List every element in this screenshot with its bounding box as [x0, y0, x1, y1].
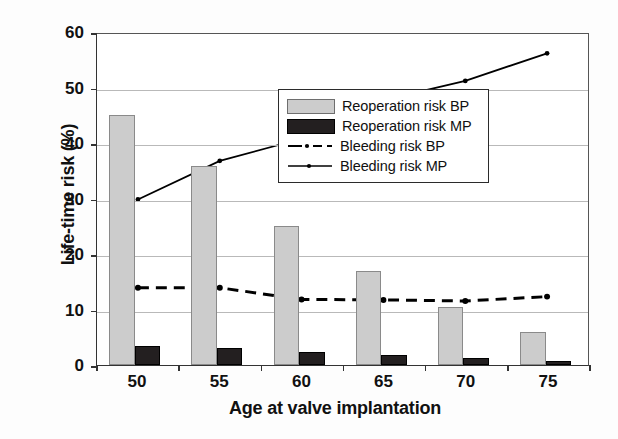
- y-axis-tick-label: 30: [44, 190, 84, 210]
- y-axis-tick-label: 60: [44, 23, 84, 43]
- legend-swatch-reoperation-mp-icon: [287, 119, 335, 134]
- x-axis-title: Age at valve implantation: [80, 398, 590, 419]
- bar: [356, 271, 381, 365]
- legend-label: Reoperation risk BP: [342, 98, 469, 114]
- gridline: [97, 201, 588, 202]
- legend-item: Reoperation risk BP: [287, 96, 481, 116]
- x-axis-tick: [589, 365, 591, 371]
- bar: [381, 355, 406, 365]
- x-axis-tick: [261, 365, 263, 371]
- y-axis-tick-label: 40: [44, 134, 84, 154]
- x-axis-tick: [507, 365, 509, 371]
- bar: [520, 332, 545, 365]
- x-axis-tick-label: 60: [271, 372, 331, 392]
- data-point-marker: [380, 297, 386, 303]
- legend-label: Bleeding risk BP: [340, 138, 445, 154]
- x-axis-tick: [96, 365, 98, 371]
- bar: [546, 361, 571, 365]
- y-axis-tick-label: 10: [44, 301, 84, 321]
- x-axis-tick-label: 55: [189, 372, 249, 392]
- y-axis-tick: [91, 200, 97, 202]
- data-point-marker: [135, 285, 141, 291]
- y-axis-tick: [91, 311, 97, 313]
- legend-dashed-line-icon: [287, 139, 333, 153]
- bar: [438, 307, 463, 365]
- legend-label: Bleeding risk MP: [340, 158, 447, 174]
- bar: [274, 226, 299, 365]
- x-axis-tick: [178, 365, 180, 371]
- data-point-marker: [217, 158, 222, 163]
- x-axis-tick: [343, 365, 345, 371]
- x-axis-tick-label: 70: [436, 372, 496, 392]
- bar: [463, 358, 488, 365]
- bar: [299, 352, 324, 365]
- y-axis-tick: [91, 33, 97, 35]
- data-point-marker: [463, 79, 468, 84]
- bar: [191, 166, 216, 365]
- data-point-marker: [299, 296, 305, 302]
- y-axis-tick-label: 20: [44, 245, 84, 265]
- legend-item: Reoperation risk MP: [287, 116, 481, 136]
- legend-item: Bleeding risk MP: [287, 156, 481, 176]
- gridline: [97, 312, 588, 313]
- chart-legend: Reoperation risk BP Reoperation risk MP …: [278, 89, 489, 183]
- y-axis-tick: [91, 255, 97, 257]
- bar: [217, 348, 242, 365]
- x-axis-tick: [425, 365, 427, 371]
- y-axis-tick: [91, 144, 97, 146]
- bar: [135, 346, 160, 365]
- x-axis-tick-label: 65: [354, 372, 414, 392]
- bar: [109, 115, 134, 365]
- y-axis-tick-label: 0: [44, 356, 84, 376]
- line-series-overlay: [97, 34, 588, 365]
- data-point-marker: [462, 298, 468, 304]
- y-axis-tick: [91, 89, 97, 91]
- legend-solid-line-icon: [287, 159, 333, 173]
- y-axis-tick-label: 50: [44, 79, 84, 99]
- data-point-marker: [545, 51, 550, 56]
- legend-label: Reoperation risk MP: [342, 118, 471, 134]
- plot-area: [96, 33, 589, 366]
- chart-figure: Life-time risk (%) Age at valve implanta…: [0, 0, 618, 439]
- legend-item: Bleeding risk BP: [287, 136, 481, 156]
- legend-swatch-reoperation-bp-icon: [287, 99, 335, 114]
- gridline: [97, 256, 588, 257]
- x-axis-tick-label: 75: [518, 372, 578, 392]
- data-point-marker: [544, 294, 550, 300]
- data-point-marker: [217, 285, 223, 291]
- x-axis-tick-label: 50: [107, 372, 167, 392]
